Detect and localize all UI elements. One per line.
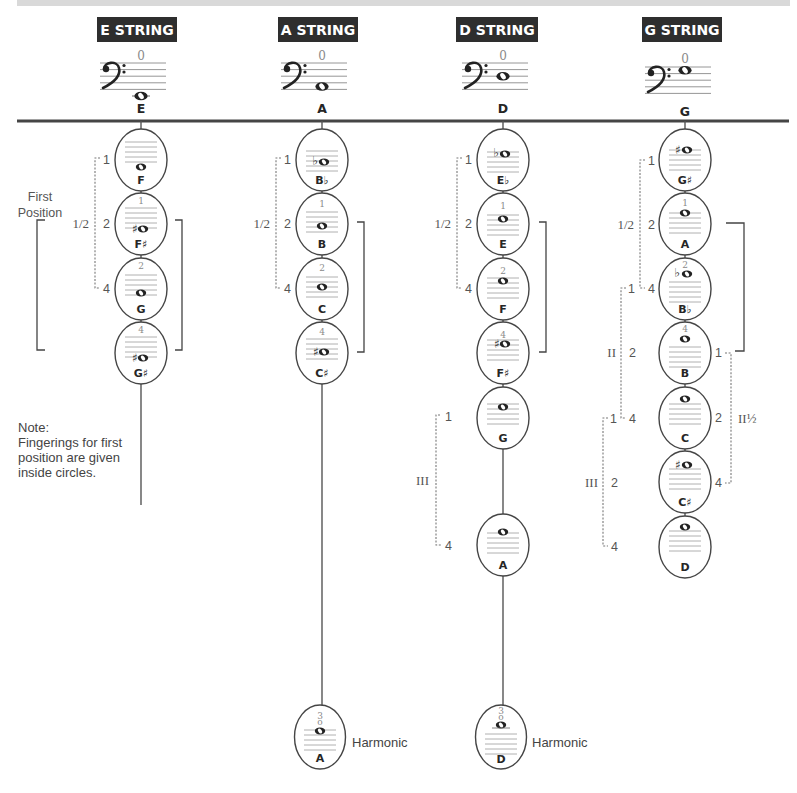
position-label: 1/2 — [253, 216, 270, 231]
first-position-bracket-a — [357, 222, 364, 352]
finger-2: 2 — [103, 217, 110, 231]
oval-e-f-sharp: ♯ 1 F♯ — [115, 193, 167, 255]
note-head-icon — [496, 72, 509, 81]
note-label: F♯ — [497, 367, 510, 380]
finger-1: 1 — [445, 410, 452, 424]
footnote: Note: Fingerings for first position are … — [18, 420, 122, 480]
note-label: C♯ — [315, 367, 328, 380]
open-fingering: 0 — [137, 49, 145, 63]
open-note-label: E — [137, 101, 146, 116]
harmonic-caption-d: Harmonic — [532, 735, 588, 750]
note-label: C♯ — [678, 496, 691, 509]
accidental: ♭ — [493, 146, 499, 160]
position-label: 1/2 — [72, 216, 89, 231]
note-label: F — [137, 174, 145, 187]
finger-4: 4 — [629, 412, 636, 426]
open-note-label: G — [680, 104, 690, 119]
top-band — [17, 0, 790, 6]
position-label: 1/2 — [617, 217, 634, 232]
oval-g-b-flat: ♭ 2 B♭ — [659, 258, 711, 320]
note-label: F — [499, 303, 507, 316]
accidental: ♯ — [313, 345, 319, 359]
note-head-icon — [134, 92, 147, 101]
accidental: ♭ — [312, 154, 318, 168]
fingering: 1 — [500, 201, 506, 211]
oval-g-c-sharp: ♯ C♯ — [659, 451, 711, 513]
oval-d-f: 2 F — [477, 258, 529, 320]
note-label: G♯ — [678, 174, 692, 187]
bass-clef-icon — [284, 63, 307, 88]
note-label: E♭ — [497, 174, 510, 187]
oval-d-f-sharp: ♯ 4 F♯ — [477, 322, 529, 384]
note-label: F♯ — [135, 238, 148, 251]
oval-g-g-sharp: ♯ G♯ — [659, 129, 711, 191]
position-label: II½ — [738, 411, 757, 426]
oval-a-b-flat: ♭ B♭ — [296, 129, 348, 191]
finger-4: 4 — [465, 282, 472, 296]
fingering: 4 — [319, 327, 325, 337]
note-label: B — [318, 238, 326, 251]
oval-d-a: A — [477, 514, 529, 576]
finger-4: 4 — [611, 540, 618, 554]
header-a-string: A STRING 0 A — [278, 17, 358, 116]
finger-4: 4 — [103, 282, 110, 296]
position-label: III — [585, 475, 598, 490]
accidental: ♯ — [675, 458, 681, 472]
half-position-bracket-e: 1 2 4 1/2 — [72, 153, 110, 296]
accidental: ♭ — [674, 266, 680, 280]
oval-a-c-sharp: ♯ 4 C♯ — [296, 322, 348, 384]
note-label: D — [680, 561, 689, 574]
finger-1: 1 — [610, 412, 617, 426]
oval-d-e: 1 E — [477, 193, 529, 255]
fingering: 1 — [319, 199, 325, 209]
string-title: E STRING — [100, 22, 173, 38]
fingering: 4 — [138, 325, 144, 335]
first-position-bracket-g — [726, 223, 744, 351]
accidental: ♯ — [132, 222, 138, 236]
open-fingering: 0 — [318, 49, 326, 63]
accidental: ♯ — [494, 337, 500, 351]
oval-g-c: C — [659, 387, 711, 449]
half-position-bracket-g: 1 2 4 1/2 — [617, 154, 655, 296]
third-position-bracket-d: 1 4 III — [416, 410, 452, 553]
second-position-bracket-g: 1 2 4 II — [607, 282, 636, 426]
harmonic-mark: o — [317, 717, 322, 727]
second-and-half-position-bracket-g: 1 2 4 II½ — [715, 346, 757, 490]
oval-d-e-flat: ♭ E♭ — [477, 129, 529, 191]
note-label: C — [681, 432, 689, 445]
finger-2: 2 — [284, 217, 291, 231]
oval-e-g-sharp: ♯ 4 G♯ — [115, 322, 167, 384]
footnote-line: position are given — [18, 450, 120, 465]
first-position-bracket-d — [539, 222, 546, 352]
accidental: ♯ — [132, 351, 138, 365]
note-label: G♯ — [134, 367, 148, 380]
string-title: G STRING — [644, 22, 719, 38]
fingering-chart: E STRING 0 E A STRING 0 A D STRING 0 D G… — [0, 0, 797, 793]
first-position-label-line1: First — [28, 190, 53, 204]
footnote-title: Note: — [18, 420, 49, 435]
finger-2: 2 — [611, 476, 618, 490]
fingering: 2 — [500, 266, 506, 276]
note-label: D — [496, 753, 505, 766]
finger-2: 2 — [465, 217, 472, 231]
oval-d-g: G — [477, 387, 529, 449]
oval-e-g: 2 G — [115, 258, 167, 320]
oval-e-f: F — [115, 129, 167, 191]
footnote-line: Fingerings for first — [18, 435, 122, 450]
open-fingering: 0 — [499, 49, 507, 63]
finger-1: 1 — [715, 346, 722, 360]
fingering: 4 — [500, 330, 506, 340]
note-label: B♭ — [315, 174, 329, 187]
fingering: 2 — [682, 260, 688, 270]
position-label: 1/2 — [434, 216, 451, 231]
oval-a-b: 1 B — [296, 193, 348, 255]
finger-1: 1 — [465, 153, 472, 167]
note-label: G — [136, 303, 145, 316]
position-label: III — [416, 473, 429, 488]
fingering: 1 — [138, 196, 144, 206]
finger-2: 2 — [629, 346, 636, 360]
harmonic-mark: o — [498, 712, 503, 722]
open-note-label: D — [498, 101, 508, 116]
note-label: A — [499, 559, 508, 572]
note-label: G — [498, 432, 507, 445]
